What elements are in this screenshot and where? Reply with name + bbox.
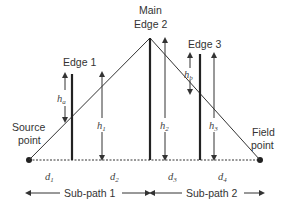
main-edge-label-1: Main	[139, 4, 162, 16]
source-label-2: point	[18, 134, 41, 146]
ray-main-edge-to-field	[150, 38, 260, 160]
subpath2-label: Sub-path 2	[186, 187, 238, 199]
hb-label: hb	[184, 69, 193, 82]
d3-label: d3	[168, 171, 177, 184]
h2-label: h2	[160, 120, 169, 133]
d2-label: d2	[110, 171, 119, 184]
d1-label: d1	[45, 171, 54, 184]
edge-1-label: Edge 1	[63, 56, 96, 68]
subpath1-label: Sub-path 1	[64, 187, 116, 199]
edge-3-label: Edge 3	[188, 38, 221, 50]
source-label-1: Source	[12, 121, 45, 133]
h1-label: h1	[97, 120, 106, 133]
main-edge-label-2: Edge 2	[134, 18, 167, 30]
diffraction-diagram: Main Edge 2 Edge 1 Edge 3 Source point F…	[0, 0, 289, 213]
h3-label: h3	[209, 120, 218, 133]
field-label-2: point	[251, 139, 274, 151]
field-label-1: Field	[252, 126, 275, 138]
d4-label: d4	[218, 171, 227, 184]
ha-label: ha	[57, 93, 66, 106]
